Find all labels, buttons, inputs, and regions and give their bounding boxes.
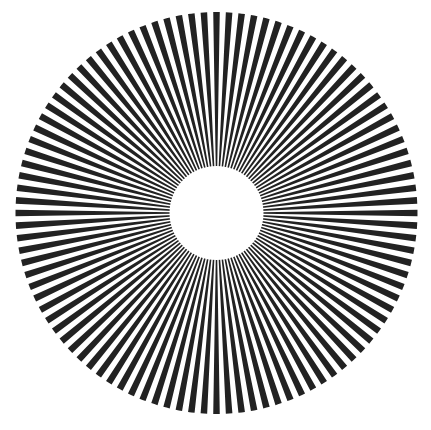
center-hole: [170, 166, 264, 260]
siemens-star-pattern: [0, 0, 431, 430]
radial-spokes-graphic: [0, 0, 431, 430]
